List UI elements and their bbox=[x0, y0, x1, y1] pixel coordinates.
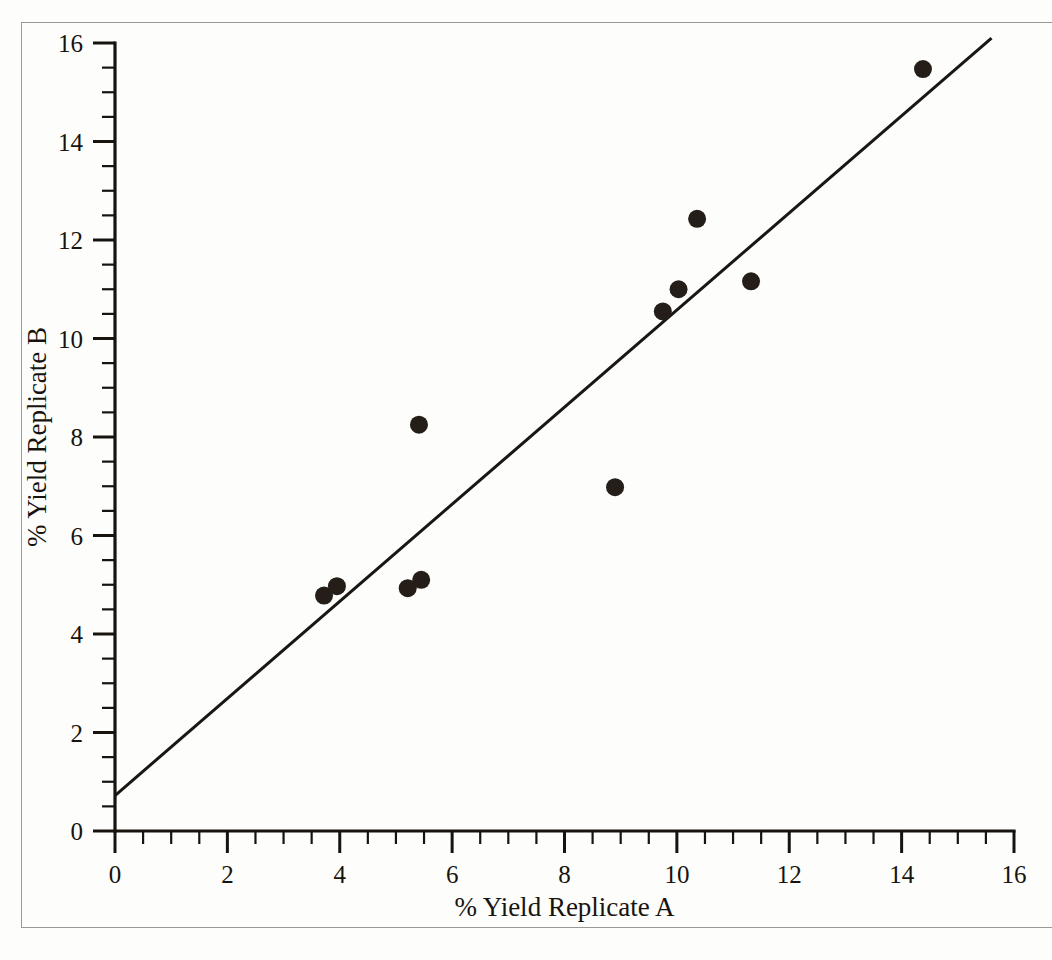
x-axis-tick-label: 12 bbox=[777, 861, 802, 888]
y-axis-tick-label: 12 bbox=[58, 227, 83, 254]
data-point-marker bbox=[410, 416, 428, 434]
y-axis-tick-label: 16 bbox=[58, 30, 83, 57]
x-axis-tick-label: 8 bbox=[558, 861, 571, 888]
scatter-plot: 02468101214160246810121416% Yield Replic… bbox=[0, 0, 1052, 960]
plot-canvas: 02468101214160246810121416% Yield Replic… bbox=[0, 0, 1052, 960]
y-axis-tick-label: 0 bbox=[71, 818, 84, 845]
data-point-marker bbox=[328, 577, 346, 595]
x-axis-tick-label: 0 bbox=[109, 861, 122, 888]
figure-page: 02468101214160246810121416% Yield Replic… bbox=[0, 0, 1052, 960]
data-point-marker bbox=[412, 571, 430, 589]
y-axis-tick-label: 4 bbox=[71, 621, 84, 648]
data-point-marker bbox=[654, 302, 672, 320]
data-point-marker bbox=[742, 272, 760, 290]
data-point-marker bbox=[914, 60, 932, 78]
x-axis-title: % Yield Replicate A bbox=[454, 892, 675, 922]
x-axis-tick-label: 16 bbox=[1002, 861, 1027, 888]
x-axis-tick-label: 14 bbox=[889, 861, 915, 888]
x-axis-tick-label: 10 bbox=[664, 861, 689, 888]
y-axis-title: % Yield Replicate B bbox=[22, 327, 52, 547]
data-point-marker bbox=[670, 280, 688, 298]
y-axis-tick-label: 8 bbox=[71, 424, 84, 451]
y-axis-tick-label: 2 bbox=[71, 720, 84, 747]
y-axis-tick-label: 14 bbox=[58, 129, 84, 156]
x-axis-tick-label: 6 bbox=[446, 861, 459, 888]
x-axis-tick-label: 4 bbox=[334, 861, 347, 888]
data-point-marker bbox=[688, 210, 706, 228]
y-axis-tick-label: 6 bbox=[71, 523, 84, 550]
x-axis-tick-label: 2 bbox=[221, 861, 234, 888]
data-point-marker bbox=[606, 478, 624, 496]
y-axis-tick-label: 10 bbox=[58, 326, 83, 353]
regression-line bbox=[115, 38, 992, 795]
